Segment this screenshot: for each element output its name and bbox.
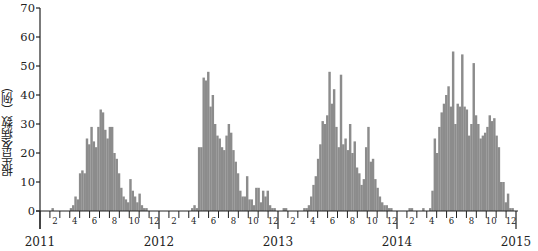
bar xyxy=(315,176,317,211)
bar xyxy=(241,197,243,212)
bar xyxy=(214,124,216,211)
month-label: 10 xyxy=(367,216,378,226)
bar xyxy=(351,153,353,211)
month-label: 8 xyxy=(350,216,355,226)
x-axis: 2011246810122012246810122013246810122014… xyxy=(25,211,532,249)
bar xyxy=(457,104,459,211)
month-label: 12 xyxy=(387,216,398,226)
y-tick-label: 0 xyxy=(28,204,35,218)
bar xyxy=(134,197,136,212)
bar xyxy=(251,199,253,211)
month-label: 6 xyxy=(211,216,216,226)
year-label: 2014 xyxy=(382,235,413,249)
bar xyxy=(434,139,436,212)
bar xyxy=(479,139,481,212)
bar xyxy=(383,205,385,211)
bar xyxy=(205,81,207,212)
bar xyxy=(104,130,106,211)
bar xyxy=(219,139,221,212)
bar xyxy=(331,104,333,211)
bar xyxy=(319,144,321,211)
bar xyxy=(202,78,204,211)
bar xyxy=(230,133,232,211)
month-label: 8 xyxy=(231,216,236,226)
bar xyxy=(308,205,310,211)
bar xyxy=(225,136,227,211)
bar xyxy=(340,75,342,211)
bar xyxy=(436,153,438,211)
bar xyxy=(136,202,138,211)
bar xyxy=(262,191,264,211)
bar xyxy=(255,188,257,211)
year-label: 2013 xyxy=(263,235,294,249)
bar xyxy=(443,104,445,211)
bar xyxy=(475,115,477,211)
year-label: 2015 xyxy=(501,235,532,249)
y-axis-label: 报告发病数（例） xyxy=(2,80,18,176)
bar xyxy=(246,176,248,211)
month-label: 2 xyxy=(290,216,295,226)
bar xyxy=(228,124,230,211)
bar xyxy=(74,197,76,212)
y-tick-label: 70 xyxy=(20,1,35,15)
bar xyxy=(450,107,452,211)
bar xyxy=(310,197,312,212)
bar xyxy=(244,197,246,212)
bar xyxy=(125,199,127,211)
month-label: 10 xyxy=(486,216,497,226)
bar xyxy=(212,95,214,211)
month-label: 6 xyxy=(449,216,454,226)
year-label: 2012 xyxy=(144,235,175,249)
bar xyxy=(116,159,118,211)
bar xyxy=(264,197,266,212)
bar xyxy=(269,205,271,211)
month-label: 6 xyxy=(92,216,97,226)
bar xyxy=(120,188,122,211)
month-label: 4 xyxy=(429,216,434,226)
bar xyxy=(338,147,340,211)
bar xyxy=(118,173,120,211)
bars-group xyxy=(51,52,513,212)
bar xyxy=(500,182,502,211)
bar xyxy=(111,127,113,211)
bar xyxy=(486,127,488,211)
bar xyxy=(463,107,465,211)
bar xyxy=(354,141,356,211)
bar xyxy=(452,52,454,212)
bar xyxy=(221,147,223,211)
bar xyxy=(360,185,362,211)
bar xyxy=(445,95,447,211)
bar xyxy=(248,199,250,211)
bar xyxy=(379,197,381,212)
bar xyxy=(372,159,374,211)
month-label: 4 xyxy=(310,216,315,226)
bar xyxy=(200,147,202,211)
bar xyxy=(335,127,337,211)
month-label: 10 xyxy=(129,216,140,226)
bar xyxy=(489,115,491,211)
bar xyxy=(493,118,495,211)
bar xyxy=(495,136,497,211)
bar xyxy=(97,127,99,211)
y-tick-label: 50 xyxy=(20,59,35,73)
bar xyxy=(109,127,111,211)
bar xyxy=(358,173,360,211)
bar xyxy=(237,173,239,211)
bar xyxy=(122,197,124,212)
y-axis: 010203040506070 xyxy=(20,1,40,229)
bar xyxy=(127,202,129,211)
month-label: 2 xyxy=(409,216,414,226)
bar xyxy=(342,144,344,211)
bar xyxy=(470,124,472,211)
epidemic-weekly-bar-chart: 010203040506070 201124681012201224681012… xyxy=(0,0,538,251)
bar xyxy=(193,205,195,211)
month-label: 10 xyxy=(248,216,259,226)
bar xyxy=(376,188,378,211)
bar xyxy=(349,124,351,211)
y-tick-label: 60 xyxy=(20,30,35,44)
bar xyxy=(468,136,470,211)
bar xyxy=(239,191,241,211)
bar xyxy=(477,124,479,211)
bar xyxy=(461,54,463,211)
bar xyxy=(267,191,269,211)
